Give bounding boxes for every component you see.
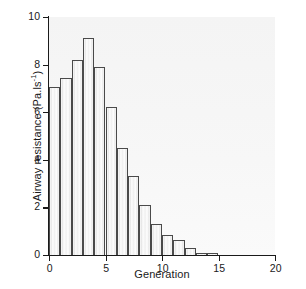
y-axis-title-suffix: ) <box>31 71 43 75</box>
bar <box>83 38 94 255</box>
bar <box>106 107 117 255</box>
chart-figure: 0246810 05101520 Airway resistance (Pa.l… <box>0 0 306 289</box>
bar <box>128 176 139 255</box>
bar <box>185 248 196 255</box>
bar <box>173 240 184 255</box>
y-tick: 6 <box>43 112 48 113</box>
x-axis-title: Generation <box>49 268 275 280</box>
bar <box>117 148 128 255</box>
bar-series <box>49 17 275 255</box>
y-tick: 8 <box>43 65 48 66</box>
bar <box>162 235 173 255</box>
bar <box>49 87 60 255</box>
x-tick: 5 <box>106 256 107 261</box>
y-axis-title-text: Airway resistance (Pa.ls <box>31 81 43 201</box>
bar <box>139 205 150 255</box>
y-tick: 0 <box>43 255 48 256</box>
y-tick: 10 <box>43 17 48 18</box>
bar <box>207 253 218 255</box>
y-axis-title-exponent: -1 <box>29 75 38 82</box>
y-tick: 4 <box>43 160 48 161</box>
x-tick: 10 <box>162 256 163 261</box>
bar <box>151 224 162 255</box>
bar <box>196 253 207 255</box>
bar <box>72 60 83 255</box>
bar <box>94 67 105 255</box>
y-axis-title: Airway resistance (Pa.ls-1) <box>31 21 43 251</box>
bar <box>60 78 71 255</box>
x-tick: 15 <box>219 256 220 261</box>
x-tick: 0 <box>49 256 50 261</box>
x-tick: 20 <box>275 256 276 261</box>
y-tick: 2 <box>43 207 48 208</box>
